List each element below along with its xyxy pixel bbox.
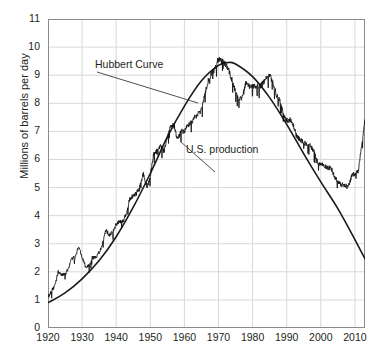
- y-axis-tick-5: 5: [0, 181, 40, 193]
- hubbert-curve-annotation: Hubbert Curve: [95, 58, 163, 70]
- y-axis-tick-3: 3: [0, 237, 40, 249]
- x-axis-tick-2010: 2010: [335, 331, 375, 343]
- chart-figure: Millions of barrels per day 012345678910…: [0, 0, 384, 358]
- y-axis-tick-9: 9: [0, 68, 40, 80]
- y-axis-tick-8: 8: [0, 96, 40, 108]
- us-production-annotation: U.S. production: [186, 143, 258, 155]
- y-axis-tick-2: 2: [0, 265, 40, 277]
- y-axis-tick-11: 11: [0, 12, 40, 24]
- y-axis-tick-4: 4: [0, 209, 40, 221]
- hubbert-curve-leader-line: [97, 72, 198, 103]
- y-axis-tick-1: 1: [0, 293, 40, 305]
- y-axis-tick-6: 6: [0, 152, 40, 164]
- y-axis-tick-7: 7: [0, 124, 40, 136]
- y-axis-tick-10: 10: [0, 40, 40, 52]
- series-hubbert-curve: [48, 62, 365, 302]
- y-axis-title: Millions of barrels per day: [18, 6, 30, 226]
